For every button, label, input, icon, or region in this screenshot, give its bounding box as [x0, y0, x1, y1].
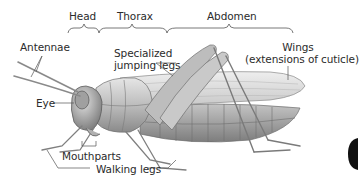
label-wings-line1: Wings [278, 41, 318, 53]
label-thorax: Thorax [117, 10, 153, 22]
label-walking-legs: Walking legs [96, 163, 161, 175]
label-abdomen: Abdomen [207, 10, 257, 22]
head-shape [71, 86, 102, 130]
label-head: Head [69, 10, 96, 22]
label-wings-line2: (extensions of cuticle) [245, 53, 359, 65]
label-jumping-legs-line2: jumping legs [114, 59, 180, 71]
label-jumping-legs-line1: Specialized [114, 47, 172, 59]
eye-shape [75, 91, 89, 109]
region-brackets [68, 24, 293, 33]
label-mouthparts: Mouthparts [62, 150, 121, 162]
label-antennae: Antennae [20, 41, 70, 53]
label-eye: Eye [36, 97, 55, 109]
edge-cutoff-shape [348, 138, 358, 170]
